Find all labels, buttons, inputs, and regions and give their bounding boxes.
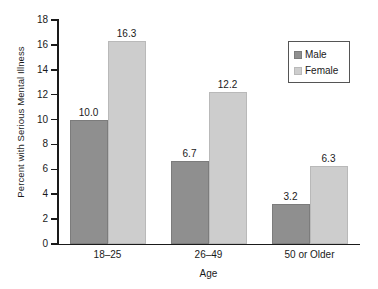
y-axis-tick-label: 12 [22,90,48,100]
legend-item-label: Male [305,49,327,60]
y-axis-tick-label: 14 [22,65,48,75]
y-axis-tick-label-wrap: 10 [0,115,48,125]
bar-value-label: 16.3 [108,28,146,39]
y-axis-tick-label-wrap: 12 [0,90,48,100]
x-axis-category-label: 18–25 [57,249,158,260]
bar-value-label: 6.7 [171,148,209,159]
y-axis-tick-label-wrap: 0 [0,239,48,249]
bar-female-1 [209,92,247,244]
bar-male-2 [272,204,310,244]
y-axis-tick-label: 18 [22,15,48,25]
bar-male-1 [171,161,209,244]
y-axis-tick-label: 2 [22,214,48,224]
bar-female-2 [310,166,348,244]
legend-swatch-icon [294,51,302,59]
bar-female-0 [108,41,146,244]
y-axis-tick-label-wrap: 14 [0,65,48,75]
y-axis-tick-label-wrap: 4 [0,189,48,199]
bar-value-label: 6.3 [310,153,348,164]
y-axis-tick-label: 6 [22,164,48,174]
y-axis-tick-label: 16 [22,40,48,50]
y-axis-tick-label-wrap: 6 [0,164,48,174]
legend: MaleFemale [288,41,350,83]
legend-item-male[interactable]: Male [294,49,345,60]
y-axis-tick-label-wrap: 8 [0,139,48,149]
y-axis-tick-label-wrap: 18 [0,15,48,25]
bar-chart: Percent with Serious Mental Illness 0246… [0,0,378,289]
legend-item-label: Female [305,65,338,76]
bar-value-label: 12.2 [209,79,247,90]
y-axis-tick-label-wrap: 2 [0,214,48,224]
legend-item-female[interactable]: Female [294,65,345,76]
bar-male-0 [70,120,108,244]
x-axis-title: Age [57,268,360,279]
x-axis-category-label: 50 or Older [259,249,360,260]
bar-value-label: 10.0 [70,107,108,118]
x-axis-category-label: 26–49 [158,249,259,260]
bar-value-label: 3.2 [272,191,310,202]
y-axis-tick-label: 10 [22,115,48,125]
y-axis-tick-label: 8 [22,139,48,149]
y-axis-tick-label: 4 [22,189,48,199]
y-axis-tick-label-wrap: 16 [0,40,48,50]
legend-swatch-icon [294,67,302,75]
y-axis-tick-label: 0 [22,239,48,249]
